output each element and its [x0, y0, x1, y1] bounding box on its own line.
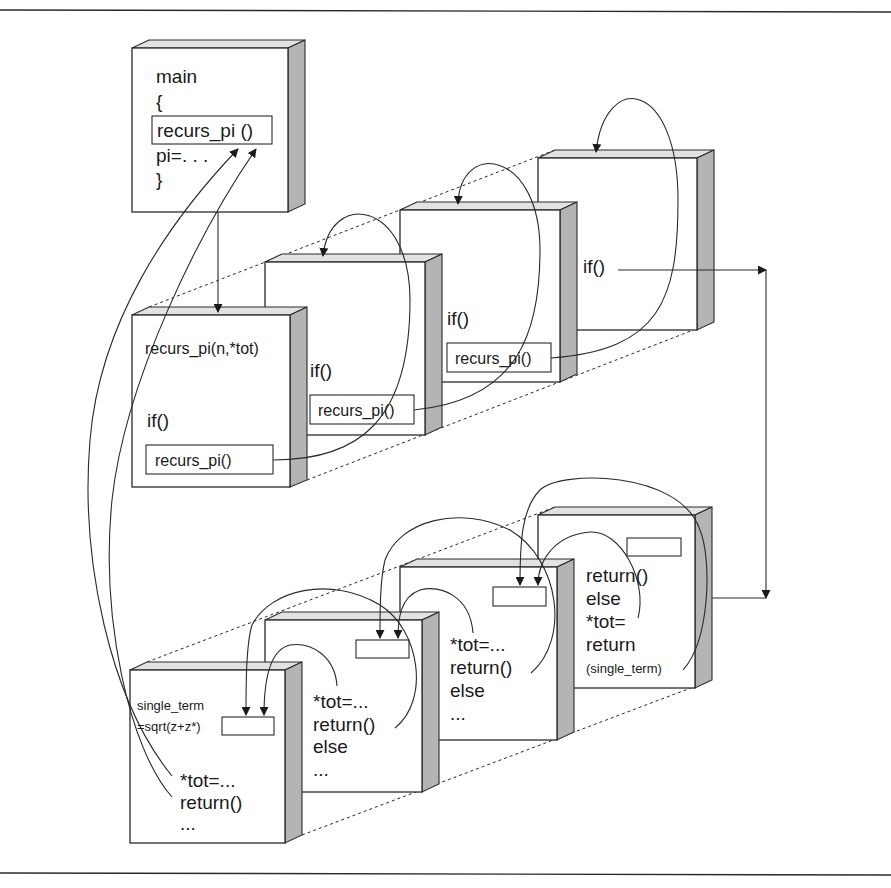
return-frame-2-line-2: return() [313, 714, 375, 735]
top-rule [0, 10, 891, 12]
frame-1-if: if() [147, 410, 169, 431]
return-frame-1-line-5: ... [180, 813, 196, 834]
frame-3-if: if() [447, 308, 469, 329]
return-frame-2-line-1: *tot=... [313, 691, 368, 712]
frame-2-call: recurs_pi() [318, 402, 394, 420]
return-frame-2-line-3: else [313, 736, 348, 757]
frame-1-call: recurs_pi() [155, 452, 231, 470]
return-frame-4-line-3: *tot= [586, 611, 626, 632]
return-frame-1-line-1: single_term [137, 698, 204, 713]
return-frame-3-line-2: return() [450, 657, 512, 678]
return-frame-4-line-4: return [586, 634, 636, 655]
frame-2-if: if() [310, 360, 332, 381]
return-frame-1-line-3: *tot=... [180, 770, 235, 791]
return-frame-2-line-4: ... [313, 759, 329, 780]
return-frame-3-line-4: ... [450, 703, 466, 724]
return-frame-4-line-1: return() [586, 565, 648, 586]
frame-4-if: if() [583, 256, 605, 277]
return-frame-4-line-5: (single_term) [586, 661, 662, 676]
frame-3-call: recurs_pi() [455, 350, 531, 368]
main-pi-assign: pi=. . . [156, 145, 208, 166]
bottom-rule [0, 873, 891, 875]
return-frame-4-line-2: else [586, 588, 621, 609]
return-frame-1-result-box [222, 717, 274, 735]
return-frame-1 [130, 662, 302, 843]
return-frame-1-line-4: return() [180, 792, 242, 813]
return-frame-3-result-box [493, 587, 546, 606]
main-call: recurs_pi () [157, 120, 253, 142]
main-close-brace: } [156, 169, 162, 190]
return-frame-3-line-1: *tot=... [450, 634, 505, 655]
main-label: main [156, 66, 197, 87]
frame-1-signature: recurs_pi(n,*tot) [145, 340, 259, 358]
return-frame-2-result-box [356, 640, 409, 658]
return-frame-1-line-2: =sqrt(z+z*) [137, 719, 201, 734]
recursion-diagram: recurs_pi(n,*tot) if() recurs_pi() if() … [0, 0, 891, 888]
return-frame-4-result-box [627, 538, 681, 556]
return-frame-3-line-3: else [450, 680, 485, 701]
main-open-brace: { [156, 91, 163, 112]
